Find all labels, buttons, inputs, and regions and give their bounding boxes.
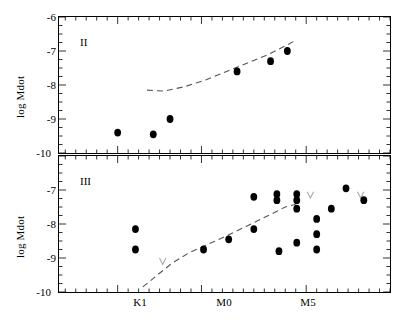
y-tick-lower-2: -8	[26, 218, 56, 230]
y-axis-label-upper: log Mdot	[14, 76, 26, 118]
panel-upper-plot-area	[59, 17, 390, 153]
y-tick-lower-3: -9	[26, 252, 56, 264]
panel-label-iii: III	[80, 175, 91, 187]
y-axis-label-lower: log Mdot	[14, 216, 26, 258]
x-tick-m5: M5	[288, 296, 328, 308]
x-tick-m0: M0	[204, 296, 244, 308]
y-tick-lower-4: -10	[21, 286, 51, 298]
y-tick-upper-3: -9	[26, 113, 56, 125]
panel-label-ii: II	[80, 36, 87, 48]
y-tick-upper-4: -10	[21, 147, 51, 159]
panel-lower-plot-area	[59, 156, 390, 292]
x-tick-k1: K1	[120, 296, 160, 308]
y-tick-lower-1: -7	[26, 184, 56, 196]
y-tick-upper-1: -7	[26, 45, 56, 57]
panel-lower-iii	[58, 155, 391, 293]
panel-upper-ii	[58, 16, 391, 154]
y-tick-upper-0: -6	[26, 11, 56, 23]
figure-root: log Mdot -6 -7 -8 -9 -10 II log Mdot -7 …	[0, 0, 403, 323]
y-tick-upper-2: -8	[26, 79, 56, 91]
